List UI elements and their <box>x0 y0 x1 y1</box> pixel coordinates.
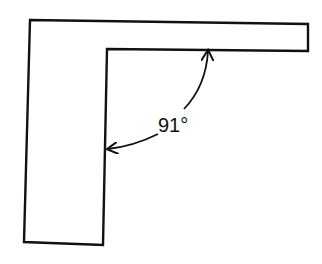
angle-arc-upper <box>184 51 208 109</box>
angle-label: 91° <box>158 114 188 136</box>
angle-diagram: 91° <box>0 0 322 264</box>
angle-arc-lower <box>108 134 158 149</box>
